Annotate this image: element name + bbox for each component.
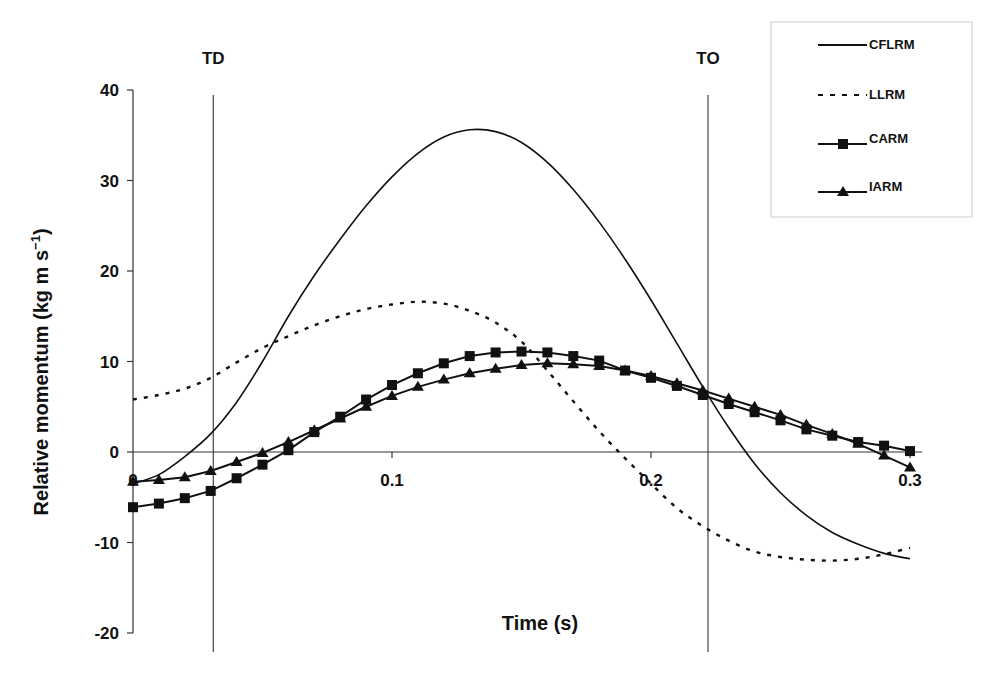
y-axis-title: Relative momentum (kg m s−1) [28, 228, 52, 515]
y-axis-title-close: ) [30, 228, 52, 235]
series-llrm [133, 302, 910, 561]
y-tick-label: 0 [110, 443, 119, 462]
y-tick-label: 40 [100, 81, 119, 100]
legend-label: IARM [869, 179, 902, 194]
y-axis-title-sup: −1 [28, 235, 43, 250]
y-tick-label: 20 [100, 262, 119, 281]
triangle-marker-icon [541, 357, 553, 367]
x-tick-label: 0.2 [639, 471, 663, 490]
square-marker-icon [283, 445, 293, 455]
square-marker-icon [491, 347, 501, 357]
square-marker-icon [258, 460, 268, 470]
square-marker-icon [154, 499, 164, 509]
square-marker-icon [879, 441, 889, 451]
series-line [133, 302, 910, 561]
legend-label: CFLRM [869, 37, 915, 52]
square-marker-icon [232, 473, 242, 483]
y-tick-label: 10 [100, 353, 119, 372]
square-marker-icon [413, 368, 423, 378]
square-marker-icon [465, 351, 475, 361]
event-label-to: TO [696, 49, 719, 68]
y-tick-label: -10 [94, 534, 119, 553]
square-marker-icon [206, 486, 216, 496]
square-marker-icon [180, 493, 190, 503]
series-iarm [127, 357, 916, 486]
square-marker-icon [542, 347, 552, 357]
legend-label: CARM [869, 131, 908, 146]
legend-label: LLRM [869, 87, 905, 102]
y-axis-title-main: Relative momentum (kg m s [30, 250, 52, 516]
legend: CFLRM LLRM CARM IARM [771, 22, 972, 217]
y-tick-label: 30 [100, 172, 119, 191]
series-line [133, 352, 910, 508]
square-marker-icon [128, 502, 138, 512]
momentum-chart: TDTO 403020100-10-2000.10.20.3 Time (s) … [0, 0, 987, 674]
square-marker-icon [905, 446, 915, 456]
y-tick-label: -20 [94, 624, 119, 643]
square-marker-icon [838, 139, 848, 149]
x-tick-label: 0 [128, 471, 137, 490]
square-marker-icon [439, 358, 449, 368]
event-markers: TDTO [202, 49, 720, 652]
series-carm [128, 347, 915, 513]
x-tick-label: 0.3 [898, 471, 922, 490]
x-tick-label: 0.1 [380, 471, 404, 490]
x-axis-title: Time (s) [502, 612, 578, 634]
square-marker-icon [387, 380, 397, 390]
square-marker-icon [517, 347, 527, 357]
event-label-td: TD [202, 49, 225, 68]
